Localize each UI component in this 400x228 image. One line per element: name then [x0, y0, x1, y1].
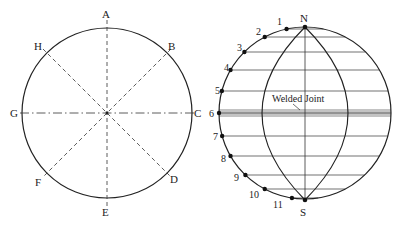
division-point-10 [263, 187, 267, 191]
point-label-f: F [35, 176, 41, 188]
division-point-1 [284, 27, 288, 31]
division-point-3 [242, 50, 246, 54]
south-label: S [300, 206, 306, 218]
division-label-5: 5 [215, 85, 220, 96]
division-label-7: 7 [213, 131, 218, 142]
point-label-c: C [194, 107, 201, 119]
north-pole-dot [303, 25, 308, 30]
point-label-h: H [34, 40, 42, 52]
division-label-8: 8 [221, 153, 226, 164]
division-label-10: 10 [249, 189, 259, 200]
division-point-2 [263, 35, 267, 39]
division-point-5 [220, 89, 224, 93]
point-label-a: A [102, 8, 110, 20]
welded-sphere-diagram: ABCDEFGH N S Welded Joint 1234567891011 [0, 0, 400, 228]
meridian-right [305, 27, 348, 200]
division-label-6: 6 [209, 108, 214, 119]
division-point-11 [290, 196, 294, 200]
circle-division-figure: ABCDEFGH [10, 8, 201, 218]
division-label-11: 11 [273, 199, 283, 210]
division-point-6 [217, 111, 221, 115]
center-dot [106, 112, 109, 115]
south-pole-dot [303, 198, 308, 203]
division-label-3: 3 [237, 42, 242, 53]
north-label: N [300, 12, 308, 24]
division-label-4: 4 [224, 62, 229, 73]
division-point-9 [243, 173, 247, 177]
welded-joint-label: Welded Joint [272, 93, 324, 104]
division-label-2: 2 [256, 26, 261, 37]
sphere-figure: N S Welded Joint 1234567891011 [209, 12, 391, 218]
point-label-b: B [168, 40, 175, 52]
division-label-9: 9 [234, 172, 239, 183]
point-label-e: E [102, 206, 109, 218]
division-label-1: 1 [277, 16, 282, 27]
division-point-7 [220, 134, 224, 138]
meridian-left [262, 27, 305, 200]
point-label-d: D [170, 173, 178, 185]
division-point-8 [228, 154, 232, 158]
point-label-g: G [10, 107, 18, 119]
